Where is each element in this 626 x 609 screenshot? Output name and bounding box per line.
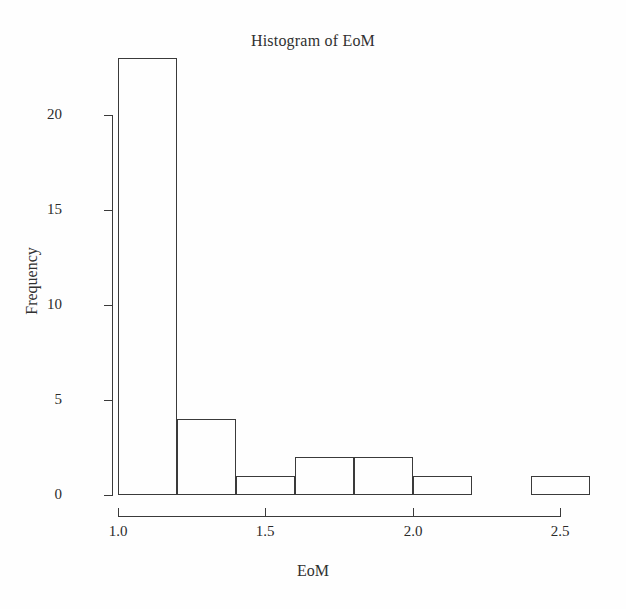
y-tick-mark (104, 115, 112, 116)
histogram-bar (413, 476, 472, 495)
x-axis-title: EoM (0, 562, 626, 580)
histogram-bar (177, 419, 236, 495)
x-tick-mark (413, 508, 414, 516)
histogram-bar (531, 476, 590, 495)
plot-area: 05101520 1.01.52.02.5 (0, 0, 626, 609)
histogram-bar (354, 457, 413, 495)
y-tick-label: 15 (22, 202, 62, 217)
x-tick-label: 2.0 (383, 524, 443, 539)
histogram-bar (236, 476, 295, 495)
y-tick-mark (104, 400, 112, 401)
histogram-bar (118, 58, 177, 495)
x-tick-mark (560, 508, 561, 516)
y-tick-mark (104, 210, 112, 211)
y-tick-mark (104, 305, 112, 306)
x-tick-label: 1.0 (88, 524, 148, 539)
x-tick-mark (265, 508, 266, 516)
y-axis-title: Frequency (23, 221, 41, 341)
y-tick-label: 0 (22, 487, 62, 502)
x-tick-label: 1.5 (235, 524, 295, 539)
y-tick-mark (104, 495, 112, 496)
y-axis-spine (112, 115, 113, 496)
y-tick-label: 5 (22, 392, 62, 407)
x-tick-label: 2.5 (530, 524, 590, 539)
histogram-bar (295, 457, 354, 495)
histogram-figure: Histogram of EoM 05101520 1.01.52.02.5 E… (0, 0, 626, 609)
x-axis-spine (118, 516, 561, 517)
x-tick-mark (118, 508, 119, 516)
y-tick-label: 20 (22, 107, 62, 122)
